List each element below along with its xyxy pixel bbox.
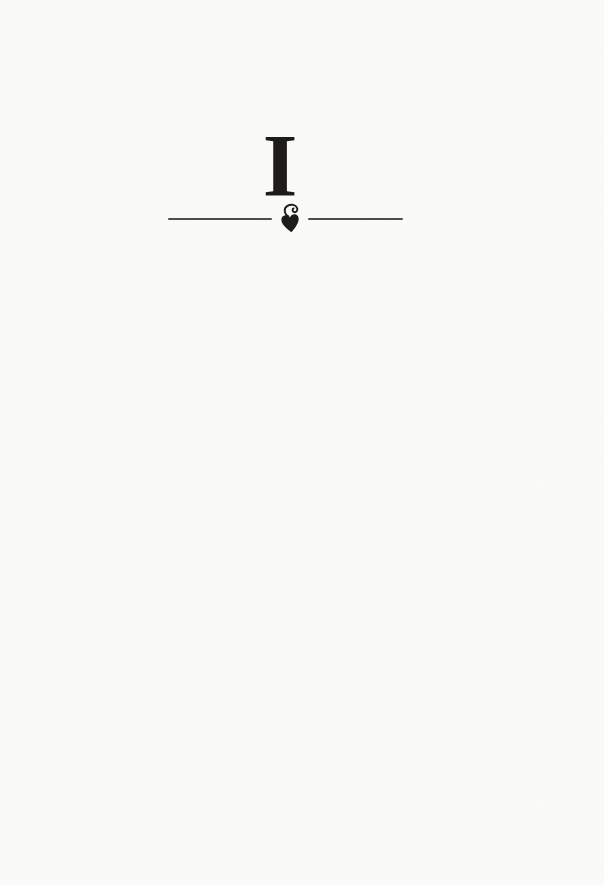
divider-rule-left — [168, 218, 272, 220]
divider-rule-right — [308, 218, 403, 220]
book-page: I — [0, 0, 604, 885]
floral-heart-icon — [279, 203, 301, 233]
section-divider — [168, 204, 403, 234]
part-number-heading: I — [263, 121, 298, 210]
paper-texture — [0, 0, 604, 885]
